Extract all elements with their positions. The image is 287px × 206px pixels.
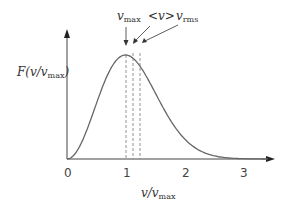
- x-tick-0: 0: [64, 166, 72, 180]
- vmax-label: vmax: [117, 9, 141, 24]
- distribution-curve: [67, 55, 268, 159]
- x-tick-2: 2: [182, 166, 190, 180]
- x-axis-label: v/vmax: [141, 186, 176, 201]
- vmean-pointer: [135, 26, 150, 41]
- x-tick-3: 3: [240, 166, 248, 180]
- maxwell-distribution-diagram: vmax <v> vrms 0 1 2 3 F(v/vmax) v/vmax: [0, 0, 287, 206]
- vmean-label: <v>: [148, 9, 175, 23]
- diagram-canvas: vmax <v> vrms 0 1 2 3 F(v/vmax) v/vmax: [0, 0, 287, 206]
- vmax-arrow-icon: [124, 40, 129, 46]
- y-axis-arrow-icon: [64, 29, 70, 38]
- vrms-pointer: [145, 25, 178, 41]
- vrms-label: vrms: [176, 9, 198, 24]
- y-axis-label: F(v/vmax): [16, 65, 69, 80]
- x-tick-1: 1: [123, 166, 131, 180]
